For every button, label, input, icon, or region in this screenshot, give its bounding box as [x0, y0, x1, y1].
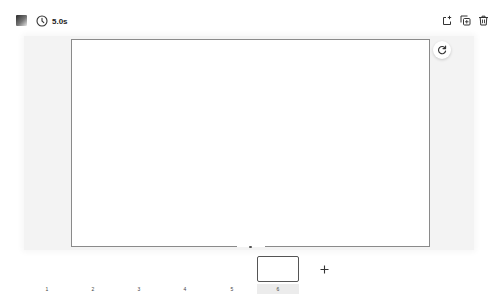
- frame-number: 5: [210, 284, 254, 294]
- trash-icon: [478, 15, 489, 26]
- add-frame-button[interactable]: [318, 263, 330, 275]
- add-page-icon: [442, 15, 453, 26]
- frame-3[interactable]: 3: [117, 256, 161, 294]
- canvas-border-bottom-right: [265, 246, 430, 247]
- frame-number: 2: [71, 284, 115, 294]
- page-timeline: 1 2 3 4 5 6: [0, 252, 498, 308]
- chevron-down-icon: [249, 246, 252, 248]
- top-toolbar: 5.0s: [0, 0, 498, 36]
- frame-number: 4: [163, 284, 207, 294]
- frame-2[interactable]: 2: [71, 256, 115, 294]
- design-canvas[interactable]: [71, 39, 430, 247]
- duration-button[interactable]: 5.0s: [36, 14, 68, 28]
- refresh-button[interactable]: [433, 41, 451, 59]
- clock-icon: [36, 15, 48, 27]
- image-thumbnail-icon[interactable]: [16, 15, 27, 26]
- page-actions: [441, 14, 490, 27]
- delete-button[interactable]: [477, 14, 490, 27]
- frame-5[interactable]: 5: [210, 256, 254, 294]
- plus-icon: [320, 265, 329, 274]
- frame-6-active[interactable]: 6: [256, 256, 300, 294]
- frame-thumbnail: [257, 256, 299, 282]
- frame-number: 3: [117, 284, 161, 294]
- duplicate-button[interactable]: [459, 14, 472, 27]
- frame-1[interactable]: 1: [25, 256, 69, 294]
- canvas-border-bottom-left: [71, 246, 237, 247]
- duration-value: 5.0s: [52, 17, 68, 26]
- timeline-collapse-handle[interactable]: [245, 244, 255, 250]
- duplicate-icon: [460, 15, 471, 26]
- frame-4[interactable]: 4: [163, 256, 207, 294]
- frame-number: 6: [257, 284, 299, 294]
- frame-number: 1: [25, 284, 69, 294]
- add-page-button[interactable]: [441, 14, 454, 27]
- refresh-icon: [437, 45, 447, 55]
